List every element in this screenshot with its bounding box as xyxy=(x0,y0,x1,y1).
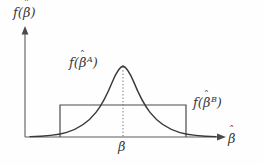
x-axis-label: ˆβ xyxy=(228,132,236,145)
curve-b-label: f(ˆβB) xyxy=(193,96,222,109)
y-axis-label: f(ˆβ) xyxy=(13,6,35,19)
y-axis xyxy=(22,26,29,137)
y-label-beta-hat: ˆβ xyxy=(23,6,31,19)
figure-canvas: f(ˆβ) f(ˆβA) f(ˆβB) ˆβ β xyxy=(0,0,263,165)
hat-icon: ˆ xyxy=(229,126,234,137)
x-tick-label-beta: β xyxy=(118,140,126,153)
curve-b-close-paren: ) xyxy=(217,95,222,110)
hat-icon: ˆ xyxy=(24,0,29,11)
hat-icon: ˆ xyxy=(204,91,209,102)
x-label-beta-hat: ˆβ xyxy=(228,132,236,145)
curve-a-beta-hat: ˆβ xyxy=(79,56,87,69)
y-label-close-paren: ) xyxy=(30,5,35,20)
curve-b-beta-hat: ˆβ xyxy=(203,96,211,109)
distribution-plot xyxy=(0,0,263,165)
curve-a-close-paren: ) xyxy=(93,55,98,70)
curve-a-label: f(ˆβA) xyxy=(69,56,98,69)
y-axis-arrowhead xyxy=(22,26,29,35)
x-axis-arrowhead xyxy=(217,133,226,140)
hat-icon: ˆ xyxy=(80,51,85,62)
